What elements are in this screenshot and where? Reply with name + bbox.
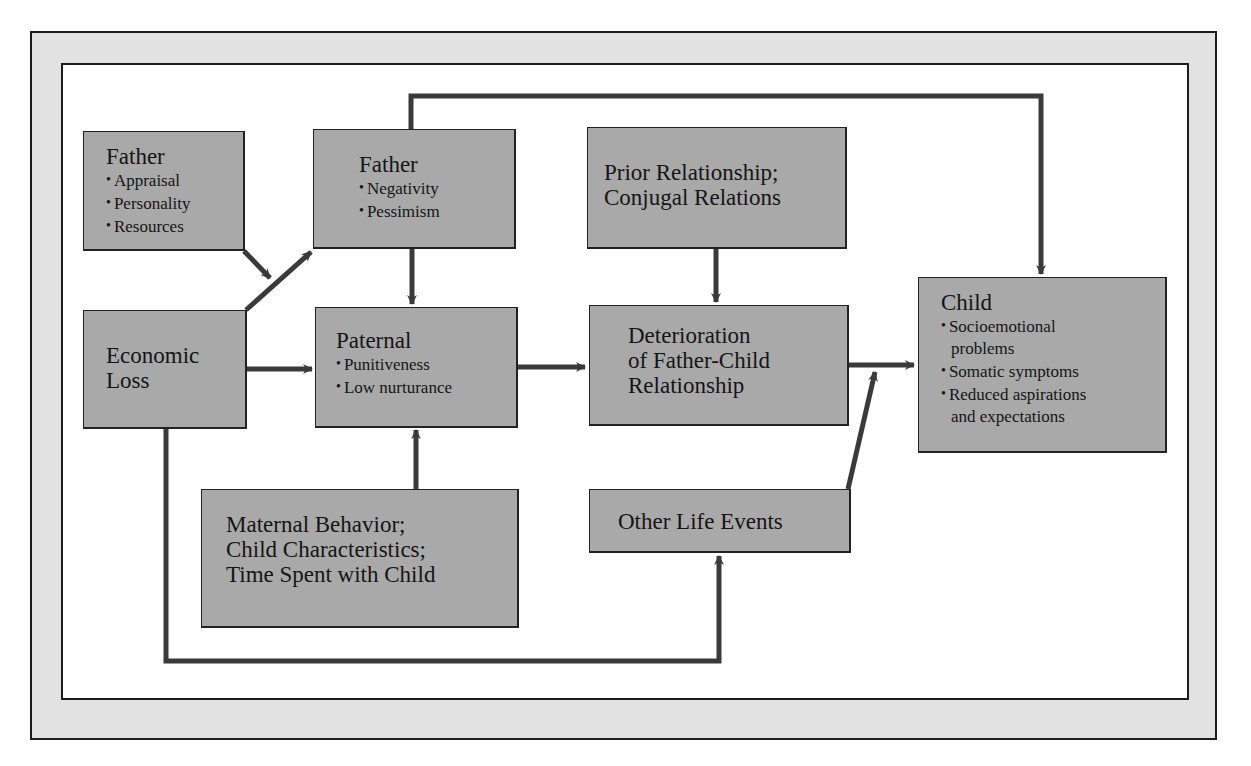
other-life-events-line: Other Life Events	[618, 509, 849, 534]
child-item-continued: and expectations	[941, 406, 1165, 428]
father-traits-title: Father	[106, 144, 243, 169]
father-outlook-title: Father	[359, 152, 514, 177]
paternal-box: Paternal Punitiveness Low nurturance	[315, 307, 518, 428]
maternal-line: Child Characteristics;	[226, 537, 517, 562]
father-traits-item: Resources	[106, 215, 243, 238]
prior-relationship-box: Prior Relationship; Conjugal Relations	[587, 127, 847, 249]
prior-relationship-line: Conjugal Relations	[604, 185, 845, 210]
father-traits-item: Personality	[106, 192, 243, 215]
paternal-title: Paternal	[336, 328, 516, 353]
maternal-box: Maternal Behavior; Child Characteristics…	[201, 489, 519, 628]
other-life-events-box: Other Life Events	[589, 489, 851, 553]
economic-loss-line: Loss	[106, 368, 245, 393]
paternal-item: Punitiveness	[336, 353, 516, 376]
child-item: Reduced aspirations	[941, 383, 1165, 406]
father-outlook-item: Pessimism	[359, 200, 514, 223]
father-outlook-item: Negativity	[359, 177, 514, 200]
father-traits-box: Father Appraisal Personality Resources	[83, 131, 245, 251]
economic-loss-line: Economic	[106, 343, 245, 368]
economic-loss-box: Economic Loss	[83, 310, 247, 429]
deterioration-line: Deterioration	[628, 323, 847, 348]
prior-relationship-line: Prior Relationship;	[604, 160, 845, 185]
deterioration-box: Deterioration of Father-Child Relationsh…	[589, 305, 849, 426]
deterioration-line: of Father-Child	[628, 348, 847, 373]
paternal-item: Low nurturance	[336, 376, 516, 399]
child-box: Child Socioemotional problems Somatic sy…	[918, 277, 1167, 453]
maternal-line: Maternal Behavior;	[226, 512, 517, 537]
father-outlook-box: Father Negativity Pessimism	[313, 129, 516, 249]
arrow-father-traits-junction	[244, 251, 270, 278]
child-title: Child	[941, 290, 1165, 315]
arrow-other-events-junction	[848, 372, 875, 489]
child-item: Socioemotional	[941, 315, 1165, 338]
maternal-line: Time Spent with Child	[226, 562, 517, 587]
deterioration-line: Relationship	[628, 373, 847, 398]
child-item-continued: problems	[941, 338, 1165, 360]
father-traits-item: Appraisal	[106, 169, 243, 192]
child-item: Somatic symptoms	[941, 360, 1165, 383]
